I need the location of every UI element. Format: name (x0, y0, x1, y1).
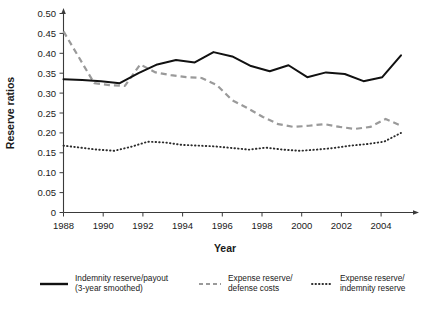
y-tick-label: 0.15 (38, 147, 57, 158)
legend-item-label: (3-year smoothed) (75, 283, 143, 293)
y-tick-label: 0.40 (38, 48, 57, 59)
x-tick-label: 2004 (371, 220, 392, 231)
chart-canvas: 0 0.05 0.10 0.15 0.20 0.25 0.30 0.35 0.4… (0, 0, 429, 309)
chart-figure: 0 0.05 0.10 0.15 0.20 0.25 0.30 0.35 0.4… (0, 0, 429, 309)
y-tick-label: 0.30 (38, 88, 57, 99)
y-tick-label: 0.50 (38, 8, 57, 19)
y-tick-label: 0.25 (38, 108, 57, 119)
y-axis (61, 8, 66, 212)
legend-item-label: Expense reserve/ (228, 273, 293, 283)
chart-legend: Indemnity reserve/payout (3-year smoothe… (40, 273, 406, 293)
y-tick-label: 0.45 (38, 28, 57, 39)
y-tick-label: 0 (51, 207, 56, 218)
y-tick-labels: 0 0.05 0.10 0.15 0.20 0.25 0.30 0.35 0.4… (38, 8, 57, 218)
y-tick-label: 0.10 (38, 167, 57, 178)
y-tick-label: 0.20 (38, 127, 57, 138)
legend-item-label: defense costs (228, 283, 279, 293)
x-tick-label: 2002 (331, 220, 352, 231)
x-tick-label: 1988 (53, 220, 74, 231)
x-tick-label: 1996 (212, 220, 233, 231)
x-tick-labels: 1988 1990 1992 1994 1996 1998 2000 2002 … (53, 220, 392, 231)
x-tick-label: 2000 (291, 220, 312, 231)
legend-item-label: Expense reserve/ (340, 273, 405, 283)
y-tick-label: 0.35 (38, 68, 57, 79)
x-tick-label: 1994 (172, 220, 193, 231)
x-tick-label: 1998 (251, 220, 272, 231)
series-expense-defense (64, 31, 402, 129)
legend-item-label: indemnity reserve (340, 283, 406, 293)
x-axis-title: Year (214, 242, 236, 254)
legend-item-label: Indemnity reserve/payout (75, 273, 169, 283)
y-tick-marks (60, 14, 64, 213)
y-axis-title: Reserve ratios (4, 77, 16, 150)
x-tick-label: 1990 (93, 220, 114, 231)
x-tick-marks (64, 213, 382, 217)
series-expense-indemnity (64, 133, 402, 151)
series-indemnity-payout (64, 52, 402, 83)
x-tick-label: 1992 (132, 220, 153, 231)
y-tick-label: 0.05 (38, 187, 57, 198)
x-axis (64, 210, 420, 215)
x-axis-arrow (413, 210, 419, 215)
